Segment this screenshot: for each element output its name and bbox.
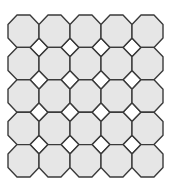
octagon-tile (132, 145, 163, 177)
octagon-tile (132, 15, 163, 47)
octagon-tile (39, 145, 70, 177)
octagon-square-tiling (0, 0, 169, 182)
octagon-tile (70, 47, 101, 79)
octagon-tile (8, 47, 39, 79)
octagon-tile (39, 15, 70, 47)
octagon-tile (101, 47, 132, 79)
octagon-tile (70, 15, 101, 47)
octagon-tile (101, 15, 132, 47)
octagon-tile (8, 112, 39, 144)
octagon-tile (70, 145, 101, 177)
octagon-tile (101, 80, 132, 112)
octagon-tile (132, 112, 163, 144)
octagon-tile (70, 112, 101, 144)
octagon-tile (8, 15, 39, 47)
tiles-group (8, 15, 163, 177)
octagon-tile (39, 112, 70, 144)
octagon-tile (101, 112, 132, 144)
octagon-tile (70, 80, 101, 112)
octagon-tile (39, 80, 70, 112)
octagon-tile (39, 47, 70, 79)
octagon-tile (101, 145, 132, 177)
octagon-tile (132, 47, 163, 79)
octagon-tile (8, 80, 39, 112)
octagon-tile (8, 145, 39, 177)
octagon-tile (132, 80, 163, 112)
